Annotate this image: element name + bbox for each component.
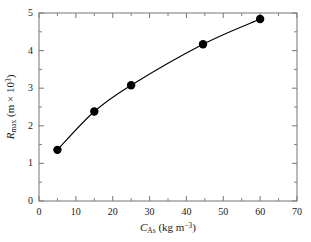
data-point (127, 81, 135, 89)
axes-frame (39, 13, 297, 201)
x-tick-label: 50 (218, 207, 228, 217)
y-axis-units: (m × 10 (4, 82, 16, 120)
y-axis-units-close: ) (4, 75, 16, 79)
x-tick-label: 30 (145, 207, 155, 217)
y-axis-unit-exponent: 3 (4, 78, 13, 82)
data-point (90, 107, 98, 115)
x-axis-units: (kg m (156, 221, 185, 233)
y-axis-subscript: max (9, 120, 18, 133)
y-tick-label: 4 (28, 46, 33, 56)
major-ticks (39, 13, 297, 201)
x-axis-subscript: As (147, 226, 155, 235)
y-tick-label: 2 (28, 121, 33, 131)
x-axis-units-close: ) (192, 221, 196, 233)
minor-ticks (39, 13, 297, 201)
series-line (57, 19, 260, 150)
y-axis-title: Rmax (m × 103) (5, 75, 18, 140)
y-tick-label: 0 (28, 196, 33, 206)
x-tick-label: 0 (37, 207, 42, 217)
data-point (53, 146, 61, 154)
x-tick-label: 20 (108, 207, 118, 217)
series-markers (53, 15, 264, 154)
y-tick-label: 1 (28, 158, 33, 168)
data-point (199, 40, 207, 48)
chart-figure: 010203040506070 012345 CAs (kg m−3) Rmax… (0, 0, 311, 242)
y-tick-label: 3 (28, 83, 33, 93)
x-tick-label: 60 (255, 207, 265, 217)
x-tick-label: 70 (292, 207, 302, 217)
x-tick-label: 10 (71, 207, 81, 217)
x-tick-label: 40 (181, 207, 191, 217)
y-axis-symbol: R (4, 133, 16, 140)
y-tick-label: 5 (28, 8, 33, 18)
x-axis-title: CAs (kg m−3) (140, 222, 196, 235)
data-point (256, 15, 264, 23)
